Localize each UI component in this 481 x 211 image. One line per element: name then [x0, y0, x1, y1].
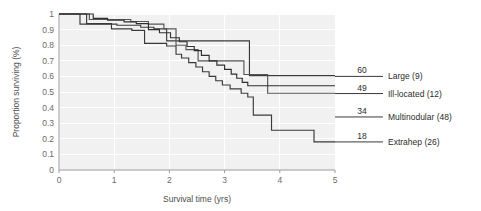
x-axis-title: Survival time (yrs) [163, 194, 231, 204]
kaplan-meier-survival-chart: 00.10.20.30.40.50.60.70.80.91 012345 604… [0, 0, 481, 211]
legend-label-extrahep-26: Extrahep (26) [388, 137, 440, 147]
x-tick-label: 4 [277, 175, 282, 185]
legend-label-ill-located-12: Ill-located (12) [388, 89, 442, 99]
legend-label-multinodular-48: Multinodular (48) [388, 112, 452, 122]
y-tick-label: 0.6 [42, 71, 54, 81]
y-tick-label: 0.8 [42, 40, 54, 50]
end-value-ill-located-12: 49 [357, 83, 367, 93]
y-tick-label: 0.7 [42, 56, 54, 66]
y-tick-label: 0.2 [42, 134, 54, 144]
end-value-extrahep-26: 18 [357, 131, 367, 141]
y-axis-tick-labels: 00.10.20.30.40.50.60.70.80.91 [42, 9, 54, 175]
y-tick-label: 1 [49, 9, 54, 19]
y-tick-label: 0.4 [42, 103, 54, 113]
x-tick-label: 5 [333, 175, 338, 185]
y-tick-label: 0.5 [42, 87, 54, 97]
x-tick-label: 3 [222, 175, 227, 185]
x-tick-label: 2 [167, 175, 172, 185]
x-tick-label: 1 [112, 175, 117, 185]
end-value-multinodular-48: 34 [357, 106, 367, 116]
survival-chart-figure: 00.10.20.30.40.50.60.70.80.91 012345 604… [0, 0, 481, 211]
y-tick-label: 0 [49, 165, 54, 175]
legend-label-large-9: Large (9) [388, 71, 423, 81]
x-tick-label: 0 [57, 175, 62, 185]
end-value-large-9: 60 [357, 65, 367, 75]
y-tick-label: 0.1 [42, 149, 54, 159]
y-axis-title: Proportion surviving (%) [11, 46, 21, 137]
y-tick-label: 0.3 [42, 118, 54, 128]
y-tick-label: 0.9 [42, 25, 54, 35]
